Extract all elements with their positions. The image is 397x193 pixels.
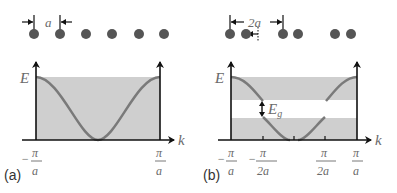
svg-text:a: a	[156, 164, 162, 178]
band-structure-diagram: a E k − π a π a (a)	[0, 0, 397, 193]
spacing-label-a: a	[45, 15, 52, 30]
svg-text:π: π	[32, 146, 39, 160]
atom	[293, 29, 303, 39]
svg-text:a: a	[228, 164, 234, 178]
band-gap-indicator: Eg	[259, 101, 282, 119]
atom	[278, 29, 288, 39]
lattice-a: a	[22, 15, 169, 39]
tick-minus-pi-over-2a: − π 2a	[248, 146, 277, 178]
tick-pi-over-a: π a	[352, 146, 363, 178]
svg-text:π: π	[156, 146, 163, 160]
energy-label: E	[19, 70, 29, 86]
panel-a: a E k − π a π a (a)	[4, 15, 185, 183]
arrow-up-icon	[259, 101, 265, 106]
gap-label: Eg	[267, 101, 282, 119]
svg-text:−: −	[217, 152, 225, 166]
atom	[81, 29, 91, 39]
svg-text:π: π	[321, 146, 328, 160]
tick-pi-over-2a: π 2a	[316, 146, 336, 178]
svg-text:2a: 2a	[257, 164, 269, 178]
atom	[159, 29, 169, 39]
svg-text:a: a	[353, 164, 359, 178]
svg-text:a: a	[32, 164, 38, 178]
tick-minus-pi-over-a: − π a	[21, 146, 42, 178]
atom	[55, 29, 65, 39]
panel-label-a: (a)	[4, 167, 21, 183]
svg-text:π: π	[228, 146, 235, 160]
svg-text:π: π	[260, 146, 267, 160]
atom	[29, 29, 39, 39]
atom	[241, 29, 251, 39]
panel-label-b: (b)	[203, 167, 220, 183]
spacing-label-2a: 2a	[248, 15, 262, 30]
tick-pi-over-a: π a	[155, 146, 166, 178]
svg-text:2a: 2a	[317, 164, 329, 178]
energy-label: E	[214, 70, 224, 86]
atom	[346, 29, 356, 39]
svg-text:−: −	[21, 152, 29, 166]
k-label: k	[375, 132, 382, 148]
k-label: k	[178, 132, 185, 148]
arrow-down-icon	[259, 112, 265, 117]
svg-text:−: −	[248, 152, 256, 166]
lattice-b: 2a	[225, 15, 356, 42]
svg-text:π: π	[353, 146, 360, 160]
panel-b: 2a Eg E k	[203, 15, 382, 183]
atom	[330, 29, 340, 39]
atom	[107, 29, 117, 39]
atom	[134, 29, 144, 39]
atom	[225, 29, 235, 39]
